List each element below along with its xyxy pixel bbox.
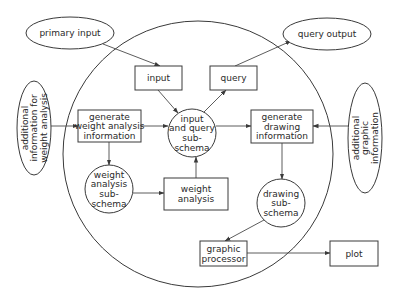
- node-label-line: sub-: [182, 133, 201, 143]
- node-label-line: weight analysis: [75, 121, 145, 131]
- node-label-line: information: [84, 131, 136, 141]
- node-label-line: weight: [181, 184, 212, 194]
- node-iq-schema: inputand querysub-schema: [168, 109, 216, 157]
- node-label-line: drawing: [263, 189, 299, 199]
- node-label-line: information: [370, 112, 380, 164]
- node-label-line: input: [180, 114, 204, 124]
- node-label-line: schema: [263, 208, 298, 218]
- node-label-line: graphic: [360, 121, 370, 155]
- node-query: query: [210, 66, 257, 90]
- node-label-line: analysis: [91, 179, 128, 189]
- node-label-line: weight: [94, 170, 125, 180]
- node-gen-weight: generateweight analysisinformation: [75, 110, 145, 142]
- data-flow-diagram: primary inputquery outputadditionalinfor…: [0, 0, 397, 299]
- node-label-line: weight analysis: [39, 93, 49, 163]
- node-label-line: graphic: [207, 244, 241, 254]
- node-label-line: processor: [202, 254, 246, 264]
- node-label-line: drawing: [264, 122, 300, 132]
- node-label-line: additional: [20, 106, 30, 151]
- node-label-line: input: [147, 73, 171, 83]
- node-label-line: sub-: [271, 198, 290, 208]
- node-weight-analysis: weightanalysis: [164, 178, 228, 210]
- node-plot: plot: [330, 241, 378, 266]
- node-label-line: and query: [169, 123, 215, 133]
- node-query-output: query output: [283, 18, 371, 50]
- node-label-line: additional: [351, 116, 361, 161]
- node-label-line: plot: [345, 249, 363, 259]
- node-label-line: generate: [89, 112, 130, 122]
- node-label-line: primary input: [39, 28, 101, 38]
- node-label-line: information for: [29, 94, 39, 161]
- arrow-iq-schema-to-query: [204, 90, 226, 112]
- node-label-line: generate: [262, 112, 303, 122]
- node-input: input: [135, 66, 182, 90]
- node-label-line: sub-: [99, 189, 118, 199]
- node-primary-input: primary input: [26, 17, 114, 49]
- node-additional-weight: additionalinformation forweight analysis: [17, 81, 51, 175]
- arrow-input-to-iq-schema: [158, 90, 178, 113]
- node-weight-schema: weightanalysissub-schema: [85, 165, 133, 213]
- node-label-line: schema: [91, 199, 126, 209]
- node-label-line: query output: [298, 29, 357, 39]
- arrow-primary-input-to-input: [103, 44, 160, 66]
- arrow-drawing-schema-to-graphic-processor: [225, 220, 264, 241]
- node-additional-graphic: additionalgraphicinformation: [348, 83, 382, 193]
- node-drawing-schema: drawingsub-schema: [257, 179, 305, 227]
- arrow-query-to-query-output: [235, 41, 291, 66]
- node-gen-drawing: generatedrawinginformation: [251, 110, 313, 143]
- node-graphic-processor: graphicprocessor: [200, 241, 247, 266]
- node-label-line: information: [256, 131, 308, 141]
- node-label-line: query: [221, 73, 248, 83]
- node-label-line: schema: [174, 143, 209, 153]
- node-label-line: analysis: [178, 194, 215, 204]
